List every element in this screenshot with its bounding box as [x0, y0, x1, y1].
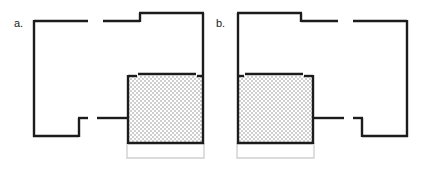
panel-b — [237, 13, 408, 158]
panel-b-label: b. — [216, 17, 225, 29]
floor-plan-canvas: a. b. — [0, 0, 441, 170]
floor-plan-figure: a. b. — [0, 0, 441, 170]
panel-a-label: a. — [14, 17, 23, 29]
panel-a: a. — [14, 13, 204, 158]
